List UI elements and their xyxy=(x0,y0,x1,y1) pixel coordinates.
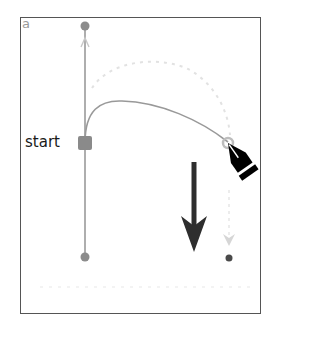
pen-tool-icon xyxy=(220,137,259,180)
drag-target-point[interactable] xyxy=(226,255,233,262)
handle-bottom-point[interactable] xyxy=(81,253,90,262)
ghost-arc xyxy=(92,62,230,135)
drag-down-arrow-icon xyxy=(181,162,207,252)
anchor-start-point[interactable] xyxy=(78,136,92,150)
handle-top-point[interactable] xyxy=(81,22,90,31)
ghost-handle xyxy=(223,190,235,246)
bezier-curve xyxy=(85,101,228,143)
ghost-arrowhead-icon xyxy=(223,234,235,246)
